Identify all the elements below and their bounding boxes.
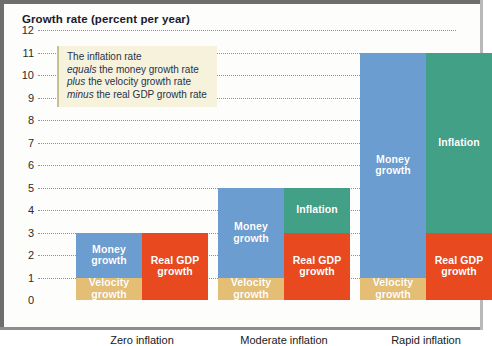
bar-segment-label: Velocitygrowth bbox=[371, 278, 416, 301]
callout-line: The inflation rate bbox=[67, 51, 210, 64]
y-axis-tick-labels: 1211109876543210 bbox=[8, 30, 34, 300]
y-axis-tick-label: 6 bbox=[8, 159, 34, 171]
bar-segment-label: Velocitygrowth bbox=[87, 278, 132, 301]
y-axis-tick-label: 2 bbox=[8, 249, 34, 261]
annotation-callout: The inflation rateequals the money growt… bbox=[57, 46, 217, 107]
bar-segment-label: Real GDPgrowth bbox=[433, 255, 486, 278]
figure-left-rule bbox=[0, 0, 4, 330]
figure-bottom-rule bbox=[0, 327, 483, 330]
y-axis-tick-label: 11 bbox=[8, 47, 34, 59]
bar-uses-1[interactable]: InflationReal GDPgrowth bbox=[284, 30, 350, 300]
bar-segment-money[interactable]: Moneygrowth bbox=[76, 233, 142, 278]
y-axis-tick-label: 9 bbox=[8, 92, 34, 104]
callout-line: minus the real GDP growth rate bbox=[67, 89, 210, 102]
callout-line: equals the money growth rate bbox=[67, 64, 210, 77]
y-axis-tick-label: 10 bbox=[8, 69, 34, 81]
bar-segment-velocity[interactable]: Velocitygrowth bbox=[76, 278, 142, 301]
bar-segment-gdp[interactable]: Real GDPgrowth bbox=[142, 233, 208, 301]
bar-segment-inflation[interactable]: Inflation bbox=[426, 53, 492, 233]
bar-segment-gdp[interactable]: Real GDPgrowth bbox=[284, 233, 350, 301]
bar-uses-2[interactable]: InflationReal GDPgrowth bbox=[426, 30, 492, 300]
bar-segment-label: Inflation bbox=[294, 204, 340, 216]
category-label: Moderate inflation bbox=[240, 334, 327, 346]
bar-segment-label: Real GDPgrowth bbox=[149, 255, 202, 278]
bar-sources-2[interactable]: MoneygrowthVelocitygrowth bbox=[360, 30, 426, 300]
callout-emphasis: plus bbox=[67, 76, 85, 87]
y-axis-tick-label: 8 bbox=[8, 114, 34, 126]
bar-segment-label: Moneygrowth bbox=[231, 221, 271, 244]
figure-top-rule bbox=[0, 0, 483, 4]
bar-segment-inflation[interactable]: Inflation bbox=[284, 188, 350, 233]
callout-line: plus the velocity growth rate bbox=[67, 76, 210, 89]
bar-segment-label: Real GDPgrowth bbox=[291, 255, 344, 278]
y-axis-tick-label: 12 bbox=[8, 24, 34, 36]
category-label: Rapid inflation bbox=[391, 334, 461, 346]
bar-segment-velocity[interactable]: Velocitygrowth bbox=[218, 278, 284, 301]
bar-segment-money[interactable]: Moneygrowth bbox=[360, 53, 426, 278]
y-axis-tick-label: 3 bbox=[8, 227, 34, 239]
callout-emphasis: equals bbox=[67, 64, 96, 75]
chart-title: Growth rate (percent per year) bbox=[22, 13, 190, 25]
bar-sources-1[interactable]: MoneygrowthVelocitygrowth bbox=[218, 30, 284, 300]
y-axis-tick-label: 0 bbox=[8, 294, 34, 306]
bar-segment-gdp[interactable]: Real GDPgrowth bbox=[426, 233, 492, 301]
bar-segment-label: Inflation bbox=[436, 137, 482, 149]
bar-segment-velocity[interactable]: Velocitygrowth bbox=[360, 278, 426, 301]
callout-emphasis: minus bbox=[67, 89, 94, 100]
category-label: Zero inflation bbox=[110, 334, 174, 346]
bar-segment-money[interactable]: Moneygrowth bbox=[218, 188, 284, 278]
bar-segment-label: Moneygrowth bbox=[373, 154, 413, 177]
y-axis-tick-label: 4 bbox=[8, 204, 34, 216]
y-axis-tick-label: 7 bbox=[8, 137, 34, 149]
y-axis-tick-label: 1 bbox=[8, 272, 34, 284]
bar-segment-label: Velocitygrowth bbox=[229, 278, 274, 301]
y-axis-tick-label: 5 bbox=[8, 182, 34, 194]
bar-segment-label: Moneygrowth bbox=[89, 244, 129, 267]
